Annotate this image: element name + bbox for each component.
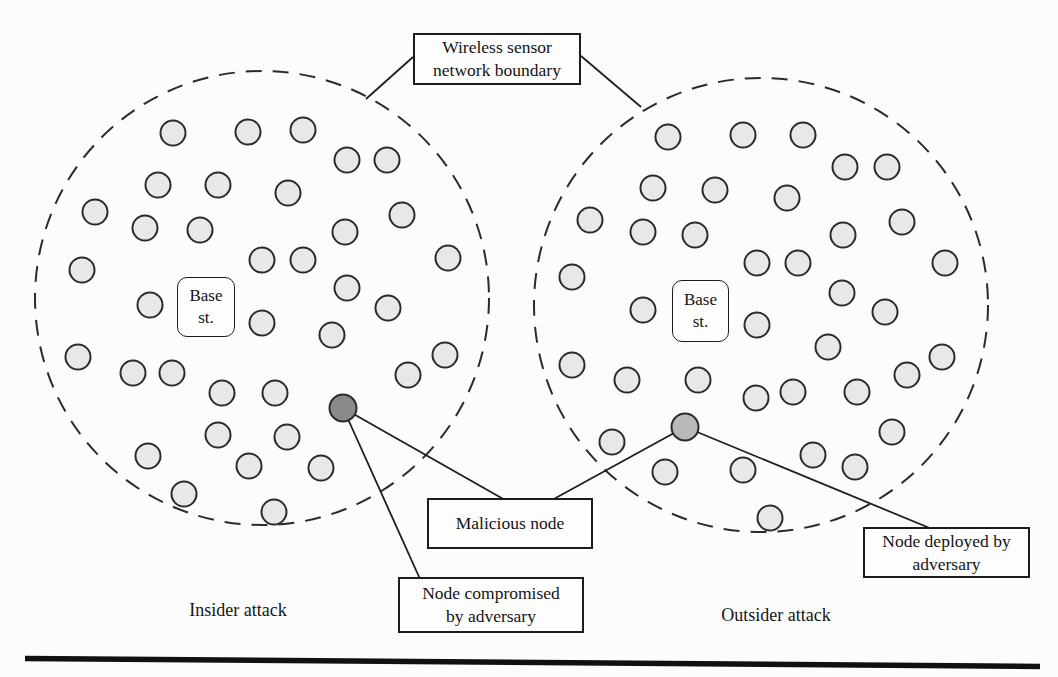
base-station-box-right: Base st. — [672, 280, 729, 342]
sensor-node — [731, 458, 756, 483]
sensor-node — [686, 368, 711, 393]
leader-line — [581, 56, 641, 107]
sensor-node — [70, 258, 95, 283]
outsider-attack-caption: Outsider attack — [706, 605, 846, 626]
sensor-node — [333, 220, 358, 245]
sensor-node — [560, 353, 585, 378]
sensor-node — [433, 343, 458, 368]
compromised-node-label-box: Node compromised by adversary — [398, 577, 584, 633]
sensor-node — [121, 361, 146, 386]
sensor-node — [873, 300, 898, 325]
sensor-node — [146, 173, 171, 198]
sensor-node — [641, 176, 666, 201]
sensor-node — [895, 363, 920, 388]
leader-line — [366, 57, 413, 99]
sensor-node — [781, 380, 806, 405]
base-station-label-left: Base st. — [189, 285, 222, 329]
sensor-node — [66, 345, 91, 370]
sensor-node — [172, 482, 197, 507]
sensor-node — [275, 425, 300, 450]
sensor-node — [376, 296, 401, 321]
sensor-node — [791, 123, 816, 148]
wsn-boundary-left — [35, 71, 489, 525]
bottom-rule — [25, 659, 1040, 667]
sensor-node — [786, 251, 811, 276]
sensor-node — [758, 506, 783, 531]
sensor-node — [875, 155, 900, 180]
sensor-node — [745, 313, 770, 338]
sensor-node — [263, 381, 288, 406]
sensor-node — [210, 381, 235, 406]
sensor-node — [843, 455, 868, 480]
sensor-node — [136, 444, 161, 469]
sensor-node — [320, 323, 345, 348]
sensor-node — [291, 248, 316, 273]
base-station-label-right: Base st. — [684, 289, 717, 333]
sensor-node — [335, 276, 360, 301]
base-station-box-left: Base st. — [177, 277, 235, 337]
sensor-node — [133, 216, 158, 241]
insider-attack-caption: Insider attack — [168, 600, 308, 621]
sensor-node — [578, 208, 603, 233]
sensor-node — [775, 186, 800, 211]
wireless-boundary-label-box: Wireless sensor network boundary — [413, 33, 581, 85]
sensor-node — [262, 500, 287, 525]
malicious-node-label: Malicious node — [456, 512, 564, 535]
compromised-node — [330, 395, 357, 422]
sensor-node — [831, 223, 856, 248]
sensor-node — [615, 368, 640, 393]
sensor-node — [237, 454, 262, 479]
sensor-node — [160, 361, 185, 386]
sensor-node — [880, 420, 905, 445]
sensor-node — [250, 248, 275, 273]
sensor-node — [276, 181, 301, 206]
sensor-node — [206, 423, 231, 448]
sensor-node — [703, 178, 728, 203]
sensor-node — [138, 293, 163, 318]
figure-canvas: Wireless sensor network boundary Base st… — [0, 0, 1058, 677]
wsn-boundary-right — [534, 78, 988, 532]
sensor-node — [436, 246, 461, 271]
compromised-node-label: Node compromised by adversary — [422, 582, 560, 628]
sensor-node — [335, 148, 360, 173]
wireless-boundary-label: Wireless sensor network boundary — [433, 36, 561, 82]
malicious-node-label-box: Malicious node — [427, 498, 593, 549]
deployed-node-label-box: Node deployed by adversary — [863, 527, 1030, 578]
sensor-node — [560, 265, 585, 290]
sensor-node — [161, 121, 186, 146]
sensor-node — [801, 443, 826, 468]
deployed-node-label: Node deployed by adversary — [882, 530, 1010, 576]
sensor-node — [731, 123, 756, 148]
sensor-node — [236, 120, 261, 145]
sensor-node — [890, 210, 915, 235]
sensor-node — [188, 218, 213, 243]
leader-line — [343, 408, 505, 500]
sensor-node — [631, 298, 656, 323]
sensor-node — [656, 125, 681, 150]
sensor-node — [816, 335, 841, 360]
sensor-node — [206, 173, 231, 198]
bottom-rule-group — [25, 659, 1040, 667]
sensor-node — [600, 430, 625, 455]
sensor-node — [291, 118, 316, 143]
sensor-node — [833, 155, 858, 180]
sensor-node — [653, 460, 678, 485]
sensor-node — [933, 251, 958, 276]
sensor-node — [845, 380, 870, 405]
sensor-node — [930, 345, 955, 370]
sensor-node — [631, 220, 656, 245]
sensor-node — [309, 456, 334, 481]
sensor-node — [744, 386, 769, 411]
sensor-node — [830, 281, 855, 306]
sensor-node — [375, 148, 400, 173]
leader-line — [343, 408, 420, 579]
sensor-node — [83, 200, 108, 225]
sensor-node — [250, 311, 275, 336]
sensor-node — [396, 363, 421, 388]
sensor-node — [390, 203, 415, 228]
sensor-node — [683, 223, 708, 248]
sensor-node — [745, 251, 770, 276]
deployed-node — [672, 414, 699, 441]
